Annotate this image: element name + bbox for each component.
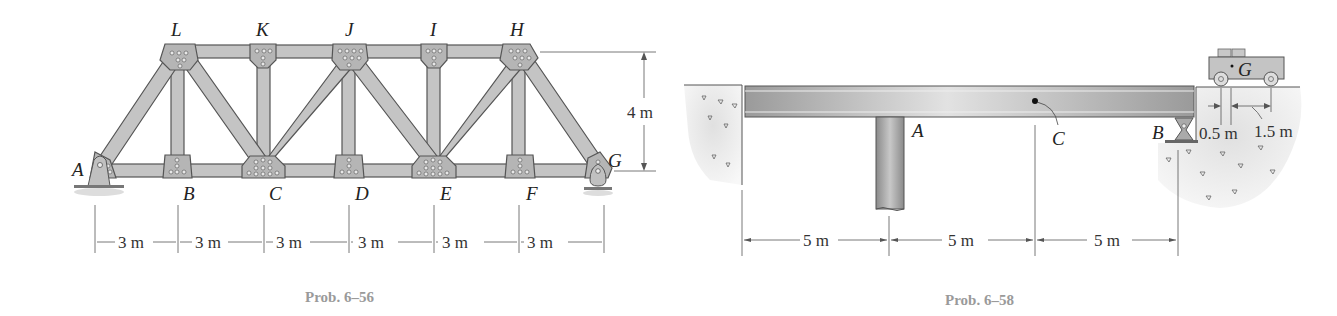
beam-span-dim-2: 5 m [948,231,974,250]
point-label-a: A [910,120,924,141]
cart-dim-1-5: 1.5 m [1254,122,1293,141]
joint-label-l: L [170,19,182,40]
beam-span-dim-1: 5 m [803,231,829,250]
span-dim-3: 3 m [276,233,302,252]
diagram-canvas: L K J I H A B C D E F G 4 m [0,0,1337,316]
span-dim-6: 3 m [527,233,553,252]
span-dim-4: 3 m [358,233,384,252]
joint-label-c: C [269,183,282,204]
joint-label-h: H [509,19,525,40]
joint-label-k: K [255,19,270,40]
joint-label-j: J [345,19,355,40]
cart-dim-0-5: 0.5 m [1199,124,1238,143]
caption-prob-6-56: Prob. 6–56 [305,289,374,305]
span-dim-5: 3 m [442,233,468,252]
left-ground [684,85,742,185]
point-label-c: C [1052,128,1065,149]
column-a [876,117,904,209]
height-dim-label: 4 m [627,103,653,122]
joint-label-g: G [608,150,622,171]
beam-span-dim-3: 5 m [1094,231,1120,250]
joint-label-b: B [183,183,195,204]
joint-label-a: A [70,159,84,180]
span-dim-2: 3 m [195,233,221,252]
joint-label-e: E [439,183,452,204]
point-label-g: G [1238,59,1252,80]
pin-support-b [1165,118,1198,143]
joint-label-d: D [354,183,369,204]
point-label-b: B [1152,122,1164,143]
beam-figure: A C B [684,49,1301,308]
joint-label-i: I [429,19,438,40]
truss-figure: L K J I H A B C D E F G 4 m [70,19,656,305]
span-dim-1: 3 m [118,233,144,252]
caption-prob-6-58: Prob. 6–58 [945,292,1014,308]
center-of-gravity-c [1032,98,1038,104]
joint-label-f: F [525,183,538,204]
